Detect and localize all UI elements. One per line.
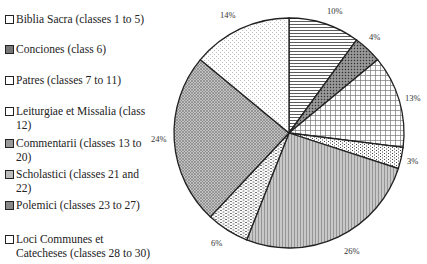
swatch-icon — [5, 45, 14, 54]
legend-item-commentarii: Commentarii (classes 13 to 20) — [5, 136, 145, 164]
pct-label-polemici: 24% — [151, 134, 167, 144]
legend-label: Loci Communes et Catecheses (classes 28 … — [16, 232, 155, 260]
legend-item-patres: Patres (classes 7 to 11) — [5, 73, 165, 87]
swatch-icon — [5, 139, 14, 148]
pct-label-biblia: 10% — [327, 6, 343, 16]
swatch-icon — [5, 107, 14, 116]
legend-label: Patres (classes 7 to 11) — [16, 73, 121, 87]
legend-item-conciones: Conciones (class 6) — [5, 42, 165, 56]
pct-label-conciones: 4% — [369, 32, 380, 42]
swatch-icon — [5, 15, 14, 24]
legend-item-biblia: Biblia Sacra (classes 1 to 5) — [5, 12, 165, 26]
pct-label-loci: 14% — [220, 10, 236, 20]
swatch-icon — [5, 76, 14, 85]
pct-label-leiturgiae: 3% — [407, 156, 418, 166]
legend-item-leiturgiae: Leiturgiae et Missalia (class 12) — [5, 104, 155, 132]
pct-label-patres: 13% — [405, 93, 421, 103]
legend-label: Scholastici (classes 21 and 22) — [16, 167, 145, 195]
legend-label: Polemici (classes 23 to 27) — [16, 198, 140, 212]
swatch-icon — [5, 235, 14, 244]
legend-item-polemici: Polemici (classes 23 to 27) — [5, 198, 165, 212]
legend-item-loci: Loci Communes et Catecheses (classes 28 … — [5, 232, 155, 260]
legend-label: Leiturgiae et Missalia (class 12) — [16, 104, 155, 132]
pct-label-scholastici: 6% — [211, 238, 222, 248]
legend-label: Conciones (class 6) — [16, 42, 106, 56]
legend-label: Biblia Sacra (classes 1 to 5) — [16, 12, 144, 26]
pct-label-commentarii: 26% — [344, 246, 360, 256]
swatch-icon — [5, 201, 14, 210]
pie-chart: 10% 4% 13% 3% 26% 6% 24% 14% — [0, 0, 427, 264]
legend-item-scholastici: Scholastici (classes 21 and 22) — [5, 167, 145, 195]
swatch-icon — [5, 170, 14, 179]
legend-label: Commentarii (classes 13 to 20) — [16, 136, 145, 164]
